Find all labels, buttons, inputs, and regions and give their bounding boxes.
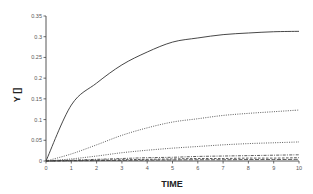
y-tick-label: 0.05 (31, 137, 42, 143)
y-tick-label: 0.3 (34, 34, 42, 40)
y-tick-label: 0.15 (31, 96, 42, 102)
series-line-solid (46, 31, 299, 161)
x-tick-label: 6 (196, 165, 199, 171)
x-tick-label: 5 (171, 165, 174, 171)
series-line-dotted-upper (46, 110, 299, 161)
x-ticks: 012345678910 (44, 161, 302, 171)
x-tick-label: 4 (146, 165, 149, 171)
y-tick-label: 0 (39, 158, 42, 164)
x-tick-label: 9 (272, 165, 275, 171)
line-chart: 00.050.10.150.20.250.30.35 012345678910 … (0, 0, 313, 194)
y-tick-label: 0.25 (31, 54, 42, 60)
series-line-dotted-middle (46, 142, 299, 161)
axes: 00.050.10.150.20.250.30.35 012345678910 (31, 13, 302, 171)
x-axis-title: TIME (161, 179, 183, 189)
plot-lines (46, 31, 299, 161)
x-tick-label: 0 (44, 165, 47, 171)
x-tick-label: 1 (70, 165, 73, 171)
y-tick-label: 0.1 (34, 117, 42, 123)
x-tick-label: 2 (95, 165, 98, 171)
y-axis-title: Y [] (12, 88, 22, 102)
y-ticks: 00.050.10.150.20.250.30.35 (31, 13, 46, 164)
x-tick-label: 8 (247, 165, 250, 171)
x-tick-label: 10 (296, 165, 302, 171)
x-tick-label: 7 (222, 165, 225, 171)
y-tick-label: 0.35 (31, 13, 42, 19)
y-tick-label: 0.2 (34, 75, 42, 81)
x-tick-label: 3 (120, 165, 123, 171)
